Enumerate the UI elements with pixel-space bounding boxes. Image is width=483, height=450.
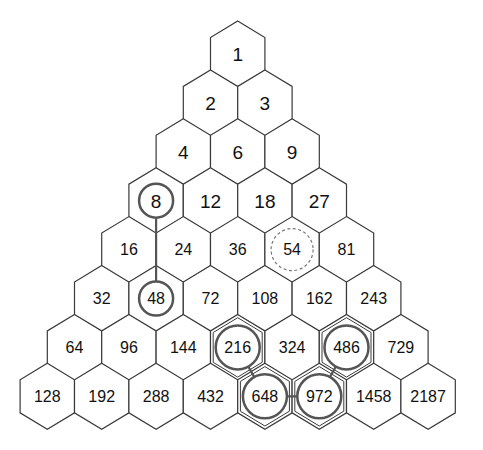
cell-value: 1458 [356, 388, 392, 405]
cell-value: 243 [360, 290, 387, 307]
cell-value: 72 [202, 290, 220, 307]
cell-value: 162 [306, 290, 333, 307]
cell-value: 6 [232, 142, 243, 163]
cell-value: 24 [174, 241, 192, 258]
cell-value: 9 [287, 142, 298, 163]
cell-value: 432 [197, 388, 224, 405]
cell-value: 729 [388, 339, 415, 356]
cell-value: 648 [252, 388, 279, 405]
hex-pyramid-diagram: 1234698121827162436548132487210816224364… [0, 0, 483, 450]
cell-value: 8 [151, 191, 162, 212]
cell-value: 18 [254, 191, 275, 212]
cell-value: 324 [279, 339, 306, 356]
pyramid-canvas: 1234698121827162436548132487210816224364… [0, 0, 483, 450]
cell-value: 12 [200, 191, 221, 212]
cell-value: 48 [147, 290, 165, 307]
cell-value: 2187 [410, 388, 446, 405]
cell-value: 4 [178, 142, 189, 163]
cell-value: 216 [224, 339, 251, 356]
cell-value: 64 [66, 339, 84, 356]
cell-value: 972 [306, 388, 333, 405]
cell-value: 32 [93, 290, 111, 307]
cell-value: 192 [88, 388, 115, 405]
cell-value: 1 [232, 44, 243, 65]
cell-value: 2 [205, 93, 216, 114]
cell-value: 96 [120, 339, 138, 356]
cell-value: 486 [333, 339, 360, 356]
cell-value: 16 [120, 241, 138, 258]
cell-value: 108 [252, 290, 279, 307]
cell-value: 54 [283, 241, 301, 258]
cell-value: 128 [34, 388, 61, 405]
cell-value: 144 [170, 339, 197, 356]
cell-value: 81 [338, 241, 356, 258]
cell-value: 36 [229, 241, 247, 258]
cell-value: 288 [143, 388, 170, 405]
cell-value: 27 [309, 191, 330, 212]
cell-value: 3 [260, 93, 271, 114]
